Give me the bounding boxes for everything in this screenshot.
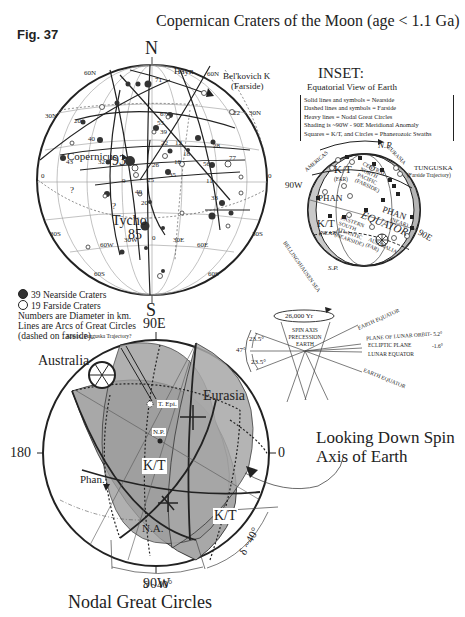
- angle-top: 23.5°: [249, 335, 264, 343]
- inset-tunguska: TUNGUSKA: [414, 164, 453, 172]
- crater-diameter: 11: [206, 177, 213, 185]
- crater-diameter: 77: [229, 154, 236, 162]
- ecliptic-angle: -1.6°: [432, 343, 443, 349]
- crater-copernicus-label: Copernicus: [67, 150, 117, 162]
- inset-key-line: Dashed lines and symbols = Farside: [304, 104, 450, 112]
- looking-line-2: Axis of Earth: [316, 447, 455, 466]
- lat-label-30n-right: 30N: [249, 109, 261, 117]
- precession-period: 26,000 Yr: [285, 312, 313, 320]
- lat-label-30s-left: 30S: [50, 230, 61, 238]
- kt-center-label: K/T: [142, 458, 167, 474]
- crater-copernicus-diameter: 93: [112, 153, 126, 169]
- inset-kt-far-sub: (FAR): [334, 176, 348, 182]
- lunar-equator-label: LUNAR EQUATOR: [368, 351, 414, 357]
- lat-label-60n-left: 60N: [84, 69, 96, 77]
- crater-diameter: 18: [183, 150, 190, 158]
- crater-belkovich-label: Bel'kovich K: [223, 71, 270, 81]
- crater-diameter: 26: [152, 161, 159, 169]
- lon-label-0: 0: [152, 234, 156, 242]
- delta-bottom-label: δ ~40°: [143, 578, 172, 590]
- inset-title: INSET:: [318, 65, 364, 82]
- crater-diameter: 40: [88, 135, 95, 143]
- crater-diameter: 67: [160, 110, 167, 118]
- crater-diameter: 28: [213, 142, 220, 150]
- crater-diameter: 55: [157, 119, 164, 127]
- nodal-eurasia-label: Eurasia: [203, 388, 245, 404]
- angle-total: 47°: [236, 346, 246, 354]
- figure-title: Copernican Craters of the Moon (age < 1.…: [156, 12, 460, 30]
- crater-diameter: 22: [233, 109, 240, 117]
- unknown-mark: ?: [112, 201, 116, 211]
- crater-diameter: 56: [203, 160, 210, 168]
- kt-right-label: K/T: [213, 508, 238, 524]
- lat-label-0-left: 0: [41, 172, 45, 180]
- tunguska-trajectory-note: Appox. Tunguska Trajectory?: [66, 333, 132, 339]
- looking-line-1: Looking Down Spin: [316, 428, 455, 447]
- looking-down-caption: Looking Down Spin Axis of Earth: [316, 428, 455, 466]
- nodal-australia-label: Australia: [38, 353, 89, 369]
- lunar-orbit-angle: - 5.2°: [430, 331, 442, 337]
- unknown-mark: ?: [70, 185, 74, 195]
- lat-label-30s-right: 30S: [252, 230, 263, 238]
- ecliptic-plane-label: ECLIPTIC PLANE: [368, 342, 411, 348]
- inset-key-line: Heavy lines = Nodal Great Circles: [304, 113, 450, 121]
- crater-diameter: 22: [161, 139, 168, 147]
- crater-diameter: 33: [211, 194, 218, 202]
- angle-bottom: 23.5°: [251, 358, 266, 366]
- legend-farside: 19 Farside Craters: [18, 300, 136, 311]
- crater-belkovich-note: (Farside): [231, 81, 264, 91]
- lat-label-30n-left: 30N: [45, 112, 57, 120]
- precession-diagram: [246, 307, 363, 402]
- nodal-0-label: 0: [278, 445, 285, 461]
- inset-kt-near: K/T: [317, 217, 335, 229]
- crater-diameter: 18: [174, 158, 181, 166]
- crater-diameter: 71: [155, 76, 162, 84]
- crater-diameter: 43: [66, 158, 73, 166]
- nodal-great-circles-title: Nodal Great Circles: [68, 592, 212, 613]
- crater-tycho-diameter: 85: [128, 227, 142, 243]
- inset-tunguska-note: (Farside Trajectory): [407, 172, 451, 178]
- nodal-north-pole-label: N.P.: [152, 428, 166, 436]
- lat-label-0-right: 0: [268, 172, 272, 180]
- crater-diameter: 32: [98, 158, 105, 166]
- north-america-label: N.A.: [142, 522, 163, 534]
- inset-key-line: Shading is ~90W - 90E Meridional Anomaly: [304, 121, 450, 129]
- inset-kt-far: K/T: [334, 163, 352, 175]
- lon-label-60e: 60E: [197, 241, 208, 249]
- nodal-180-label: 180: [10, 445, 31, 461]
- tunguska-epicenter-label: T. Epi.: [157, 400, 178, 408]
- crater-diameter: 25: [147, 176, 154, 184]
- inset-subtitle: Equatorial View of Earth: [307, 82, 397, 92]
- inset-key-line: Squares = K/T, and Circles = Phanerozoic…: [304, 130, 450, 138]
- crater-diameter: 35: [169, 171, 176, 179]
- phan-label: Phan.: [80, 473, 105, 485]
- lat-label-60s-left: 60S: [94, 270, 105, 278]
- legend-note-diameter: Numbers are Diameter in km.: [18, 311, 136, 321]
- crater-diameter: 40: [135, 188, 142, 196]
- legend-nearside: 39 Nearside Craters: [18, 289, 136, 300]
- nodal-90e-label: 90E: [143, 316, 166, 332]
- lon-label-30e: 30E: [173, 236, 184, 244]
- lat-label-60s-right: 60S: [208, 270, 219, 278]
- moon-north-label: N: [145, 38, 158, 59]
- crater-diameter: 9: [122, 177, 126, 185]
- legend-note-arcs: Lines are Arcs of Great Circles: [18, 321, 136, 331]
- crater-hayn-label: Hayn: [174, 66, 194, 76]
- open-dot-icon: [18, 300, 28, 310]
- inset-key-box: Solid lines and symbols = Nearside Dashe…: [300, 95, 454, 141]
- figure-label: Fig. 37: [17, 27, 58, 42]
- lon-label-60w: 60W: [100, 241, 114, 249]
- inset-key-line: Solid lines and symbols = Nearside: [304, 96, 450, 104]
- filled-dot-icon: [18, 289, 28, 299]
- crater-diameter: 20: [74, 117, 81, 125]
- precession-cone-label: SPIN AXISPRECESSIONEARTH: [288, 327, 322, 348]
- lat-label-60n-right: 60N: [207, 70, 219, 78]
- inset-90w: 90W: [285, 180, 303, 190]
- inset-south-pole: S.P.: [328, 264, 338, 272]
- crater-diameter: 39: [160, 128, 167, 136]
- crater-diameter: 20: [141, 199, 148, 207]
- crater-diameter: 12: [175, 139, 182, 147]
- inset-phan: PHAN: [318, 193, 343, 203]
